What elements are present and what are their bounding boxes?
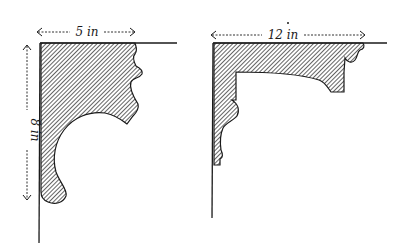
right-molding-section [214, 43, 364, 165]
right-profile-figure: 12 in [211, 22, 387, 218]
left-width-dimension: 5 in [37, 25, 135, 39]
width-label-5in: 5 in [75, 25, 98, 39]
dot-mark [287, 22, 289, 24]
width-label-12in: 12 in [268, 28, 299, 42]
left-profile-figure: 5 in 8 in [23, 25, 177, 243]
right-wall-line [212, 43, 213, 218]
left-wall-line [39, 43, 40, 243]
right-width-dimension: 12 in [211, 22, 365, 42]
height-label-8in: 8 in [28, 118, 42, 141]
left-molding-section [41, 43, 142, 203]
molding-profiles-diagram: 5 in 8 in 12 in [0, 0, 400, 252]
